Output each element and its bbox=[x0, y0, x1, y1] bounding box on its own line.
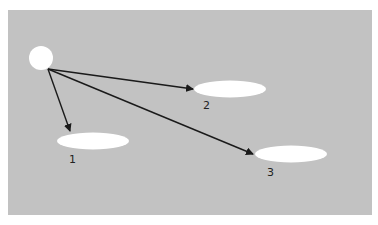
target-node-2 bbox=[194, 81, 266, 98]
target-node-3 bbox=[255, 146, 327, 163]
target-node-1 bbox=[57, 133, 129, 150]
source-node bbox=[29, 46, 53, 70]
label-3: 3 bbox=[267, 167, 274, 178]
arrow-to-2 bbox=[48, 69, 193, 89]
arrow-to-1 bbox=[48, 69, 70, 131]
label-1: 1 bbox=[69, 154, 76, 165]
diagram-canvas bbox=[0, 0, 378, 225]
label-2: 2 bbox=[203, 100, 210, 111]
